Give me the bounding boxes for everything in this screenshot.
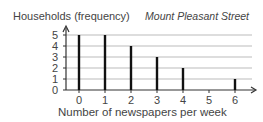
x-tick-label: 3 <box>154 94 160 106</box>
y-tick-label: 3 <box>52 51 58 63</box>
x-tick-label: 5 <box>206 94 212 106</box>
y-tick-label: 0 <box>52 84 58 96</box>
x-tick-label: 0 <box>76 94 82 106</box>
x-tick-label: 1 <box>102 94 108 106</box>
y-tick-label: 5 <box>52 29 58 41</box>
y-tick-label: 4 <box>52 40 58 52</box>
chart-plot-area: 0123450123456 <box>0 0 263 122</box>
x-tick-label: 6 <box>232 94 238 106</box>
y-tick-label: 1 <box>52 73 58 85</box>
x-tick-label: 4 <box>180 94 186 106</box>
x-tick-label: 2 <box>128 94 134 106</box>
y-tick-label: 2 <box>52 62 58 74</box>
